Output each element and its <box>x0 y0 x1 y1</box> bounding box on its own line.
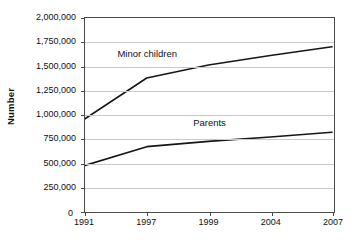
gridline <box>85 139 334 140</box>
x-axis-tick-mark <box>147 212 148 216</box>
gridline <box>85 164 334 165</box>
y-axis-tick-label: 1,500,000 <box>36 61 76 71</box>
y-axis-title-text: Number <box>6 88 17 125</box>
gridline <box>85 67 334 68</box>
y-axis-tick-mark <box>81 18 85 19</box>
x-axis-tick-mark <box>272 212 273 216</box>
plot-area: Minor childrenParents <box>84 17 335 213</box>
y-axis-tick-mark <box>81 67 85 68</box>
y-axis-tick-label: 1,250,000 <box>36 85 76 95</box>
y-axis-tick-mark <box>81 42 85 43</box>
gridline <box>85 91 334 92</box>
series-label-minor-children: Minor children <box>117 47 177 58</box>
gridline <box>85 188 334 189</box>
y-axis-tick-label: 500,000 <box>43 158 76 168</box>
x-axis-tick-label: 1999 <box>198 217 218 227</box>
y-axis-tick-mark <box>81 164 85 165</box>
gridline <box>85 42 334 43</box>
y-axis-tick-label: 2,000,000 <box>36 12 76 22</box>
y-axis-tick-label: 750,000 <box>43 133 76 143</box>
y-axis-tick-label: 250,000 <box>43 182 76 192</box>
x-axis-tick-label: 1997 <box>136 217 156 227</box>
x-axis-tick-labels: 19911997199920042007 <box>84 217 335 233</box>
y-axis-tick-mark <box>81 91 85 92</box>
y-axis-tick-mark <box>81 139 85 140</box>
x-axis-tick-label: 1991 <box>74 217 94 227</box>
x-axis-tick-mark <box>85 212 86 216</box>
x-axis-tick-label: 2004 <box>261 217 281 227</box>
y-axis-tick-labels: 250,000500,000750,0001,000,0001,250,0001… <box>18 0 80 220</box>
x-axis-tick-label: 2007 <box>323 217 343 227</box>
series-label-parents: Parents <box>193 116 226 127</box>
line-chart: Number 250,000500,000750,0001,000,0001,2… <box>0 0 354 246</box>
y-axis-tick-label: 1,000,000 <box>36 109 76 119</box>
y-axis-tick-label: 1,750,000 <box>36 36 76 46</box>
y-axis-tick-mark <box>81 188 85 189</box>
y-axis-tick-mark <box>81 115 85 116</box>
x-axis-tick-mark <box>210 212 211 216</box>
x-axis-tick-mark <box>333 212 334 216</box>
series-line <box>85 132 332 165</box>
y-axis-zero-label: 0 <box>68 208 73 218</box>
